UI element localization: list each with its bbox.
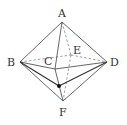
point-on-CF (57, 84, 61, 88)
label-D: D (110, 56, 119, 69)
edge-EF (63, 55, 71, 101)
label-B: B (7, 56, 15, 69)
label-E: E (73, 44, 81, 57)
edge-AE (62, 22, 71, 55)
edge-AB (20, 22, 62, 62)
label-F: F (59, 106, 67, 119)
label-A: A (57, 7, 67, 20)
edge-BF (20, 62, 63, 101)
edge-AD (62, 22, 107, 62)
edge-AC (55, 22, 62, 69)
octahedron-diagram: A B C D E F (0, 0, 127, 125)
label-C: C (44, 55, 52, 68)
edge-DF (63, 62, 107, 101)
